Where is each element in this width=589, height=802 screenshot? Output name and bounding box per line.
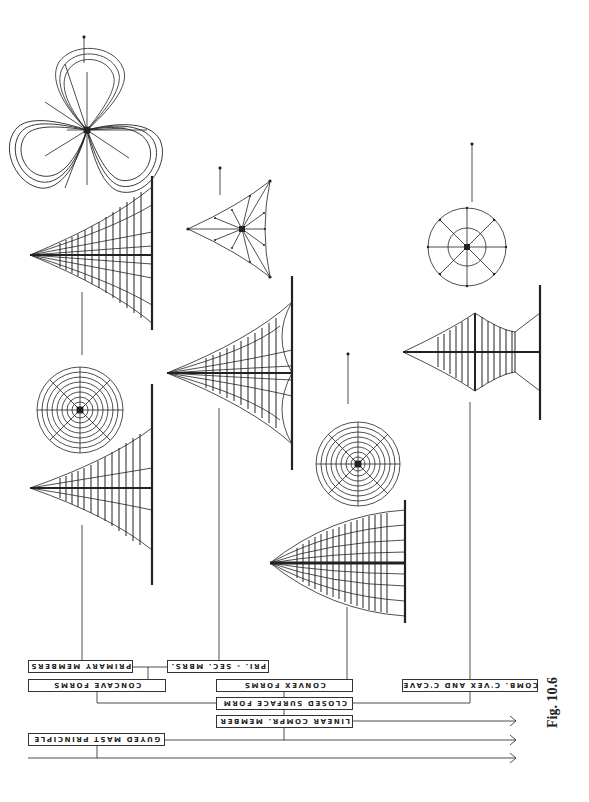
figure-caption: Fig. 10.6 xyxy=(545,677,561,728)
concave-mast-elevation-1 xyxy=(30,176,152,355)
circular-plan-concentric-2 xyxy=(316,353,400,506)
label-closed-surface-form: CLOSED SURFACE FORM xyxy=(216,697,353,710)
label-pri-sec-mbrs: PRI. - SEC. MBRS. xyxy=(167,660,269,673)
concave-mast-elevation-3 xyxy=(30,384,152,664)
label-guyed-mast-principle: GUYED MAST PRINCIPLE xyxy=(28,733,165,746)
label-comb-cvex-ccave: COMB. C'VEX AND C'CAVE xyxy=(402,679,538,692)
label-convex-forms: CONVEX FORMS xyxy=(216,679,353,692)
circular-plan-concentric-1 xyxy=(37,367,123,453)
concave-mast-elevation-2 xyxy=(167,276,292,664)
diagram-figure: PRIMARY MEMBERS PRI. - SEC. MBRS. CONCAV… xyxy=(0,0,589,802)
triangular-plan-drawing xyxy=(186,167,271,279)
trefoil-plan-drawing xyxy=(0,36,173,204)
label-linear-compr-member: LINEAR COMPR. MEMBER xyxy=(216,715,353,728)
convex-mast-elevation xyxy=(270,500,405,681)
label-primary-members: PRIMARY MEMBERS xyxy=(28,660,133,673)
circular-plan-two-ring xyxy=(427,143,507,287)
combined-mast-elevation xyxy=(403,285,540,680)
label-concave-forms: CONCAVE FORMS xyxy=(28,679,166,692)
